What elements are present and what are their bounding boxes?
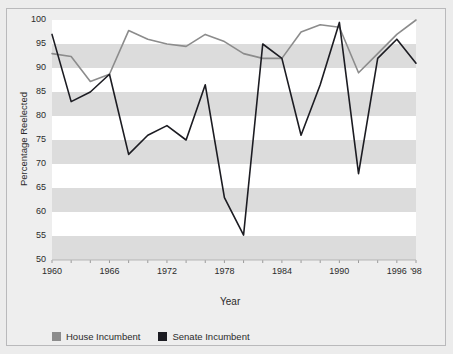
y-tick-label: 100: [22, 14, 46, 24]
grid-band: [52, 92, 416, 116]
x-tick-label: 1972: [153, 266, 181, 276]
chart-legend: House IncumbentSenate Incumbent: [52, 331, 250, 342]
y-tick-label: 50: [22, 254, 46, 264]
legend-swatch-icon: [52, 332, 61, 341]
grid-band: [52, 188, 416, 212]
grid-band: [52, 236, 416, 260]
legend-item: House Incumbent: [52, 331, 140, 342]
y-axis-title: Percentage Reelected: [18, 92, 29, 186]
x-tick-label: 1984: [268, 266, 296, 276]
y-tick-label: 90: [22, 62, 46, 72]
x-tick-label: 1978: [210, 266, 238, 276]
x-axis-ticks: [52, 260, 416, 263]
legend-item: Senate Incumbent: [158, 331, 249, 342]
x-tick-label: 1966: [95, 266, 123, 276]
legend-label: House Incumbent: [66, 331, 140, 342]
figure: 50556065707580859095100 1960196619721978…: [0, 0, 453, 354]
y-tick-label: 95: [22, 38, 46, 48]
y-tick-label: 60: [22, 206, 46, 216]
x-axis-title: Year: [220, 296, 240, 307]
y-tick-label: 55: [22, 230, 46, 240]
x-tick-label: 1990: [325, 266, 353, 276]
legend-label: Senate Incumbent: [172, 331, 249, 342]
legend-swatch-icon: [158, 332, 167, 341]
x-tick-label: 1960: [38, 266, 66, 276]
x-tick-label: '98: [402, 266, 430, 276]
gridline-bands: [52, 20, 416, 260]
